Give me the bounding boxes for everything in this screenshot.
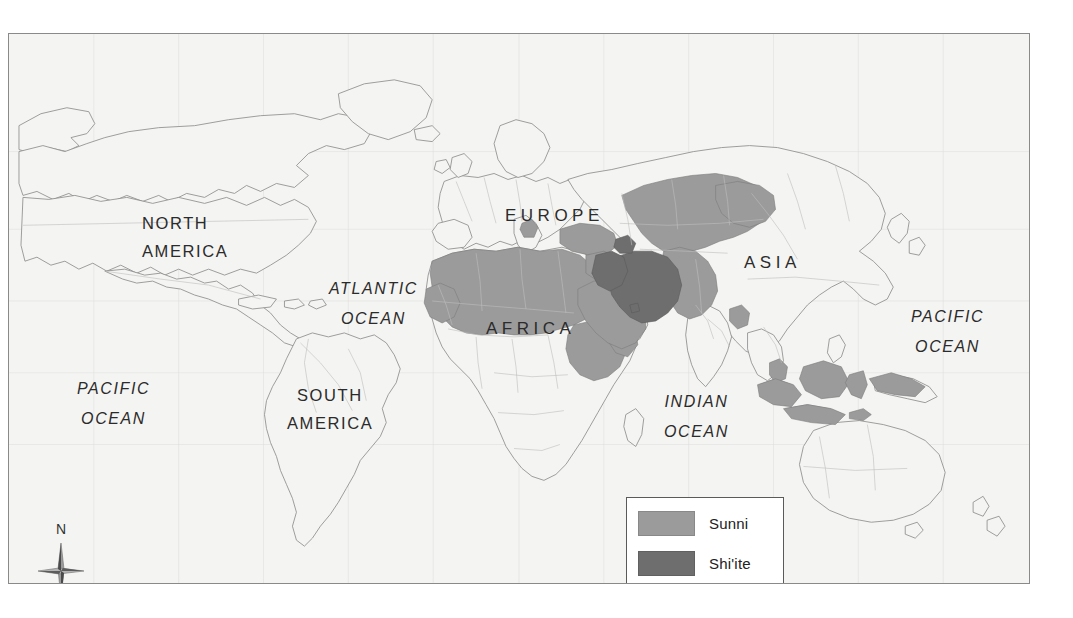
world-map: .land { fill:#f4f4f2; stroke:#8d8d8d; st… [8, 33, 1030, 584]
compass-rose: N [31, 521, 91, 584]
map-page: .land { fill:#f4f4f2; stroke:#8d8d8d; st… [0, 0, 1073, 618]
legend-entry-shiite: Shi'ite [638, 550, 751, 576]
legend-label-shiite: Shi'ite [709, 555, 751, 572]
compass-star-icon [37, 541, 85, 584]
legend-swatch-sunni [638, 511, 695, 536]
map-legend: Sunni Shi'ite [626, 497, 784, 584]
legend-entry-sunni: Sunni [638, 510, 748, 536]
compass-north-label: N [31, 521, 91, 537]
legend-label-sunni: Sunni [709, 515, 748, 532]
map-canvas: .land { fill:#f4f4f2; stroke:#8d8d8d; st… [9, 34, 1029, 583]
legend-swatch-shiite [638, 551, 695, 576]
